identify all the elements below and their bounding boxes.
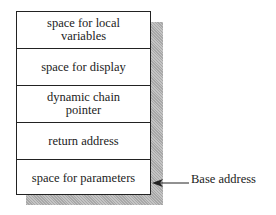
cell-display: space for display (17, 49, 150, 86)
base-address-label: Base address (191, 172, 256, 187)
cell-return-address: return address (17, 123, 150, 160)
arrow-left-icon (152, 178, 190, 188)
cell-parameters: space for parameters (17, 160, 150, 197)
cell-local-variables: space for local variables (17, 12, 150, 49)
cell-dynamic-chain-pointer: dynamic chain pointer (17, 86, 150, 123)
activation-record-stack: space for local variables space for disp… (16, 11, 151, 195)
